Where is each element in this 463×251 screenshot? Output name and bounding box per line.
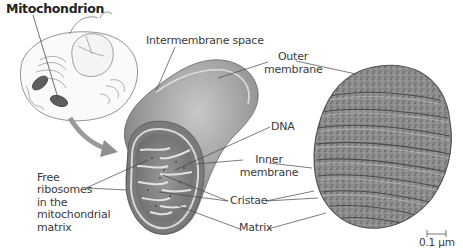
label-free-ribosomes-line4: mitochondrial [37, 209, 110, 221]
label-free-ribosomes: Free ribosomes in the mitochondrial matr… [37, 172, 110, 234]
label-outer-membrane-line1: Outer [264, 51, 322, 64]
label-outer-membrane: Outer membrane [264, 51, 322, 76]
label-inner-membrane-line1: Inner [238, 154, 300, 167]
figure-title: Mitochondrion [6, 1, 104, 16]
label-cristae: Cristae [230, 195, 267, 208]
label-free-ribosomes-line2: ribosomes [37, 184, 110, 196]
mitochondrion-figure: Mitochondrion Intermembrane space Outer … [0, 0, 463, 251]
label-inner-membrane: Inner membrane [238, 154, 300, 179]
electron-micrograph [314, 65, 451, 228]
label-dna: DNA [271, 121, 295, 134]
label-intermembrane-space: Intermembrane space [146, 35, 264, 48]
label-free-ribosomes-line5: matrix [37, 222, 110, 234]
scale-bar-label: 0.1 µm [419, 236, 455, 249]
label-matrix: Matrix [239, 222, 272, 235]
mitochondrion-cutaway-drawing [124, 60, 258, 234]
label-outer-membrane-line2: membrane [264, 64, 322, 77]
cell-overview-drawing [20, 12, 137, 121]
label-inner-membrane-line2: membrane [238, 167, 300, 180]
